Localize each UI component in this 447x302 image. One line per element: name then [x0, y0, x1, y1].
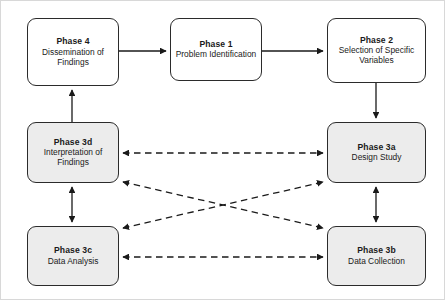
node-phase3a-desc: Design Study [348, 153, 406, 163]
node-phase3d-title: Phase 3d [54, 137, 93, 147]
node-phase3c-desc: Data Analysis [44, 257, 103, 267]
node-phase4-title: Phase 4 [56, 36, 89, 46]
node-phase3c[interactable]: Phase 3c Data Analysis [27, 226, 119, 286]
node-phase3d[interactable]: Phase 3d Interpretation of Findings [27, 122, 119, 183]
connector-phase3c-phase3a [123, 182, 323, 228]
node-phase3b[interactable]: Phase 3b Data Collection [327, 226, 426, 286]
node-phase3a-title: Phase 3a [357, 142, 395, 152]
node-phase1[interactable]: Phase 1 Problem Identification [170, 18, 262, 81]
node-phase3c-title: Phase 3c [54, 245, 92, 255]
node-phase3d-desc: Interpretation of Findings [28, 148, 118, 168]
node-phase1-title: Phase 1 [199, 39, 232, 49]
node-phase2-desc: Selection of Specific Variables [328, 46, 425, 66]
node-phase3b-title: Phase 3b [357, 245, 396, 255]
node-phase4-desc: Dissemination of Findings [28, 48, 118, 68]
node-phase2-title: Phase 2 [360, 35, 393, 45]
flowchart-diagram: Phase 4 Dissemination of Findings Phase … [0, 0, 447, 302]
node-phase2[interactable]: Phase 2 Selection of Specific Variables [327, 18, 426, 83]
node-phase3b-desc: Data Collection [344, 257, 409, 267]
node-phase1-desc: Problem Identification [172, 50, 261, 60]
node-phase4[interactable]: Phase 4 Dissemination of Findings [27, 18, 119, 86]
node-phase3a[interactable]: Phase 3a Design Study [327, 122, 426, 183]
